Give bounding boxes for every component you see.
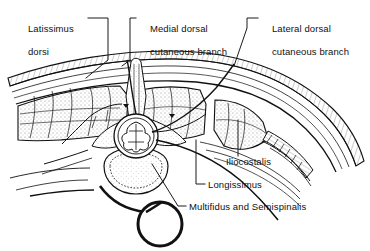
label-latissimus-dorsi-line2: dorsi: [28, 46, 49, 57]
label-lateral-dorsal-line2: cutaneous branch: [272, 46, 349, 57]
spinal-cord: [114, 114, 158, 158]
label-medial-dorsal-line1: Medial dorsal: [150, 23, 208, 34]
label-medial-dorsal-line2: cutaneous branch: [150, 46, 227, 57]
label-lateral-dorsal-cutaneous-branch: Lateral dorsal cutaneous branch: [261, 11, 349, 69]
body-wall: [8, 51, 364, 246]
label-latissimus-dorsi-line1: Latissimus: [28, 23, 74, 34]
label-multifidus-and-semispinalis: Multifidus and Semispinalis: [189, 201, 306, 213]
label-lateral-dorsal-line1: Lateral dorsal: [272, 23, 331, 34]
label-medial-dorsal-cutaneous-branch: Medial dorsal cutaneous branch: [139, 11, 227, 69]
nerve-loop: [100, 186, 182, 246]
label-iliocostalis: Iliocostalis: [226, 156, 271, 168]
anatomy-figure: Latissimus dorsi Medial dorsal cutaneous…: [0, 0, 370, 251]
label-latissimus-dorsi: Latissimus dorsi: [17, 11, 74, 69]
label-longissimus: Longissimus: [208, 179, 262, 191]
iliocostalis-muscle: [214, 100, 268, 150]
